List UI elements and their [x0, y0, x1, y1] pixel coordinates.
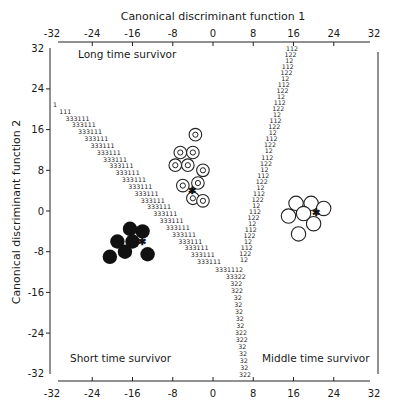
filled-circle-marker [118, 245, 132, 259]
x-tick-label: 16 [287, 28, 300, 39]
y-tick-label: -24 [28, 328, 44, 339]
open-circle-marker [281, 209, 295, 223]
x-tick-label: 24 [327, 388, 340, 399]
y-tick-label: 32 [31, 43, 44, 54]
boundary-label: 32 [240, 357, 248, 364]
x-tick-label: 16 [287, 388, 300, 399]
boundary-label: 322 [231, 287, 243, 294]
x-tick-label: -24 [84, 388, 100, 399]
x-tick-label: -8 [168, 388, 178, 399]
centroid-star-icon: ✱ [312, 207, 321, 218]
x-tick-label: -32 [44, 388, 60, 399]
boundary-label: 32 [236, 315, 244, 322]
y-tick-label: 8 [38, 165, 44, 176]
x-tick-label: -32 [44, 28, 60, 39]
x-tick-label: -16 [124, 388, 140, 399]
y-axis-title: Canonical discriminant function 2 [10, 120, 23, 305]
open-circle-marker [306, 217, 320, 231]
centroid-star-icon: ✱ [188, 185, 197, 196]
ring-circle-marker [197, 164, 210, 177]
boundary-label: 333111 [197, 258, 221, 265]
x-tick-label: 32 [368, 388, 381, 399]
x-tick-label: 0 [210, 388, 216, 399]
y-tick-label: -16 [28, 287, 44, 298]
x-tick-label: 32 [368, 28, 381, 39]
region-label-short: Short time survivor [70, 352, 172, 364]
territorial-boundaries: 1111333111333111333111333111333111333111… [53, 45, 298, 378]
y-tick-label: 16 [31, 124, 44, 135]
ring-circle-marker [169, 159, 182, 172]
boundary-label: 32 [236, 322, 244, 329]
boundary-label: 32 [238, 343, 246, 350]
region-label-long: Long time survivor [78, 48, 177, 60]
y-tick-label: 0 [38, 206, 44, 217]
top-axis-ticks: -32-24-16-808162432 [44, 28, 381, 46]
x-tick-label: 8 [250, 388, 256, 399]
boundary-label: 32 [240, 364, 248, 371]
boundary-label: 322 [236, 336, 248, 343]
boundary-label: 32 [234, 301, 242, 308]
boundary-label: 32 [234, 294, 242, 301]
y-tick-label: -32 [28, 368, 44, 379]
left-axis-ticks: 32241680-8-16-24-32 [28, 43, 50, 380]
territorial-map-chart: Canonical discriminant function 1 Canoni… [0, 0, 393, 414]
ring-circle-marker [197, 195, 210, 208]
boundary-label: 32 [239, 350, 247, 357]
x-tick-label: -16 [124, 28, 140, 39]
ring-circle-marker [189, 128, 202, 141]
boundary-label: 322 [230, 280, 242, 287]
x-tick-label: 8 [250, 28, 256, 39]
x-tick-label: -24 [84, 28, 100, 39]
bottom-axis-ticks: -32-24-16-808162432 [44, 377, 381, 399]
y-tick-label: 24 [31, 83, 44, 94]
x-tick-label: -8 [168, 28, 178, 39]
filled-circle-marker [103, 250, 117, 264]
filled-circle-marker [123, 222, 137, 236]
y-tick-label: -8 [34, 246, 44, 257]
boundary-label: 32 [235, 308, 243, 315]
series-short-time-survivor: ✱ [103, 222, 155, 264]
ring-circle-marker [182, 159, 195, 172]
boundary-label: 33322 [226, 273, 246, 280]
boundary-label: 322 [239, 371, 251, 378]
ring-circle-marker [174, 146, 187, 159]
x-axis-title: Canonical discriminant function 1 [121, 10, 306, 23]
series-long-time-survivor: ✱ [169, 128, 209, 207]
x-tick-label: 0 [210, 28, 216, 39]
boundary-label: 322 [235, 329, 247, 336]
boundary-label: 1 [53, 101, 57, 108]
boundary-label: 12 [240, 256, 248, 263]
region-label-middle: Middle time survivor [262, 352, 370, 364]
filled-circle-marker [140, 247, 154, 261]
open-circle-marker [291, 227, 305, 241]
series-middle-time-survivor: ✱ [281, 196, 331, 241]
centroid-star-icon: ✱ [138, 236, 147, 247]
ring-circle-marker [187, 146, 200, 159]
boundary-label: 3331112 [215, 266, 243, 273]
x-tick-label: 24 [327, 28, 340, 39]
